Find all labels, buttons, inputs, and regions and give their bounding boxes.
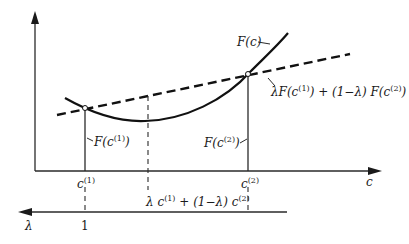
convexity-diagram: F(c) λF(c(1)) + (1−λ) F(c(2)) F(c(1)) F(… [0,0,409,244]
lambda-axis-arrow-icon [18,208,32,216]
c1-label: c(1) [77,176,95,191]
mix-label: λ c(1) + (1−λ) c(2) [145,194,250,209]
y-axis-arrow-icon [31,11,39,24]
lambda-one-label: 1 [81,219,89,233]
fc1-label: F(c(1)) [93,134,130,149]
fc2-label: F(c(2)) [203,135,240,150]
fc2-label-leader [240,139,247,143]
fc1-label-leader [87,138,93,141]
curve-label: F(c) [236,35,262,49]
point-c1-marker [83,106,88,111]
chord-label: λF(c(1)) + (1−λ) F(c(2)) [270,84,407,99]
x-axis-arrow-icon [368,167,382,175]
lambda-axis-label: λ [24,219,33,233]
c-axis-label: c [366,175,373,189]
point-c2-marker [246,72,251,77]
c2-label: c(2) [241,176,259,191]
